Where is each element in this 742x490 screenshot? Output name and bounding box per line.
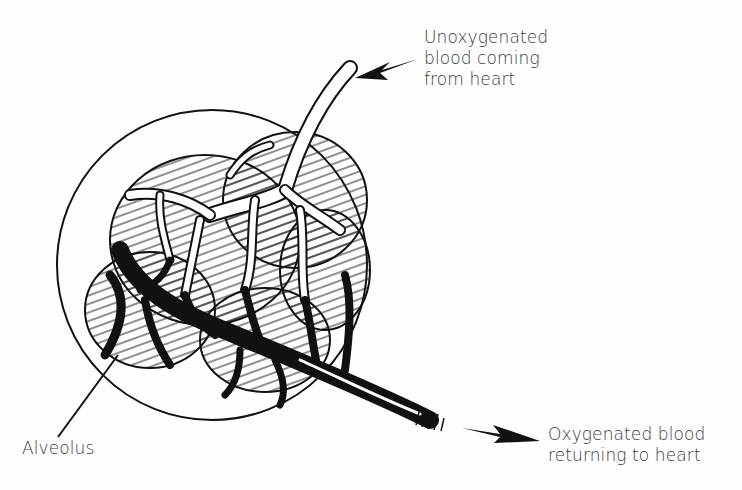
alveolus-illustration: [0, 0, 742, 490]
label-line: Oxygenated blood: [548, 424, 705, 445]
arrow-oxygenated-icon: [462, 425, 540, 443]
alveolus-leader-line: [58, 355, 118, 437]
alveolus-diagram: Unoxygenated blood coming from heart Oxy…: [0, 0, 742, 490]
label-line: from heart: [424, 69, 548, 90]
label-oxygenated-blood: Oxygenated blood returning to heart: [548, 424, 705, 466]
label-alveolus: Alveolus: [22, 438, 94, 459]
arrow-unoxygenated-icon: [355, 59, 418, 80]
label-line: Unoxygenated: [424, 27, 548, 48]
label-unoxygenated-blood: Unoxygenated blood coming from heart: [424, 27, 548, 90]
label-line: returning to heart: [548, 445, 705, 466]
label-line: blood coming: [424, 48, 548, 69]
